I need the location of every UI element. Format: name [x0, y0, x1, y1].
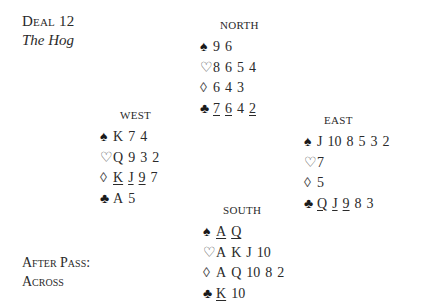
- card-rank: A: [113, 189, 123, 209]
- card-rank: J: [128, 168, 133, 188]
- card-rank: 6: [225, 37, 232, 57]
- card-rank: K: [113, 168, 123, 188]
- card-rank: 10: [327, 132, 341, 152]
- card-rank: 2: [382, 132, 389, 152]
- card-rank: 8: [355, 194, 362, 214]
- hand-west: WEST ♠K74♡Q932◊KJ97♣A5: [100, 108, 164, 209]
- card-rank: 8: [265, 263, 272, 283]
- heart-icon: ♡: [203, 243, 216, 263]
- card-rank: 10: [257, 243, 271, 263]
- suit-row-clubs: ♣7642: [200, 99, 261, 120]
- card-rank: 10: [246, 263, 260, 283]
- card-rank: A: [216, 222, 226, 242]
- heart-icon: ♡: [100, 148, 113, 168]
- spade-icon: ♠: [200, 37, 213, 57]
- deal-subtitle: The Hog: [22, 32, 74, 49]
- card-rank: J: [317, 132, 322, 152]
- card-rank: 3: [370, 132, 377, 152]
- card-rank: 6: [225, 99, 232, 119]
- card-rank: A: [216, 263, 226, 283]
- card-rank: 7: [151, 168, 158, 188]
- suit-row-spades: ♠K74: [100, 127, 164, 148]
- hand-label-north: NORTH: [220, 18, 261, 32]
- hand-label-west: WEST: [120, 108, 164, 122]
- card-rank: K: [231, 243, 241, 263]
- pass-direction: Across: [22, 274, 64, 290]
- diamond-icon: ◊: [200, 78, 213, 98]
- heart-icon: ♡: [200, 58, 213, 78]
- club-icon: ♣: [100, 189, 113, 209]
- card-rank: 8: [213, 58, 220, 78]
- hand-east: EAST ♠J108532♡7◊5♣QJ983: [304, 113, 394, 214]
- card-rank: 7: [213, 99, 220, 119]
- card-rank: 5: [317, 173, 324, 193]
- suit-row-hearts: ♡7: [304, 153, 394, 174]
- club-icon: ♣: [304, 194, 317, 214]
- card-rank: K: [113, 127, 123, 147]
- card-rank: 7: [128, 127, 135, 147]
- card-rank: Q: [231, 222, 241, 242]
- hand-label-east: EAST: [324, 113, 394, 127]
- card-rank: 4: [249, 58, 256, 78]
- card-rank: 3: [367, 194, 374, 214]
- card-rank: 2: [152, 148, 159, 168]
- card-rank: 2: [277, 263, 284, 283]
- suit-row-clubs: ♣QJ983: [304, 194, 394, 215]
- card-rank: 4: [237, 99, 244, 119]
- hand-north: NORTH ♠96♡8654◊643♣7642: [200, 18, 261, 119]
- card-rank: J: [246, 243, 251, 263]
- suit-row-hearts: ♡Q932: [100, 148, 164, 169]
- diamond-icon: ◊: [100, 168, 113, 188]
- heart-icon: ♡: [304, 153, 317, 173]
- card-rank: 5: [237, 58, 244, 78]
- card-rank: 3: [237, 78, 244, 98]
- suit-row-clubs: ♣K10: [203, 284, 289, 305]
- after-pass-label: After Pass:: [22, 255, 90, 271]
- card-rank: 2: [249, 99, 256, 119]
- suit-row-diamonds: ◊AQ1082: [203, 263, 289, 284]
- card-rank: 5: [358, 132, 365, 152]
- card-rank: 9: [343, 194, 350, 214]
- card-rank: 5: [128, 189, 135, 209]
- spade-icon: ♠: [100, 127, 113, 147]
- card-rank: Q: [231, 263, 241, 283]
- hand-south: SOUTH ♠AQ♡AKJ10◊AQ1082♣K10: [203, 203, 289, 304]
- suit-row-hearts: ♡8654: [200, 58, 261, 79]
- card-rank: 9: [139, 168, 146, 188]
- card-rank: 9: [128, 148, 135, 168]
- card-rank: Q: [113, 148, 123, 168]
- card-rank: K: [216, 284, 226, 304]
- card-rank: 6: [225, 58, 232, 78]
- card-rank: 6: [213, 78, 220, 98]
- suit-row-clubs: ♣A5: [100, 189, 164, 210]
- card-rank: 10: [231, 284, 245, 304]
- suit-row-diamonds: ◊643: [200, 78, 261, 99]
- suit-row-spades: ♠96: [200, 37, 261, 58]
- card-rank: 4: [225, 78, 232, 98]
- spade-icon: ♠: [203, 222, 216, 242]
- diamond-icon: ◊: [203, 263, 216, 283]
- card-rank: 7: [317, 153, 324, 173]
- suit-row-spades: ♠J108532: [304, 132, 394, 153]
- card-rank: J: [332, 194, 337, 214]
- suit-row-diamonds: ◊5: [304, 173, 394, 194]
- diamond-icon: ◊: [304, 173, 317, 193]
- hand-label-south: SOUTH: [223, 203, 289, 217]
- card-rank: 8: [346, 132, 353, 152]
- suit-row-diamonds: ◊KJ97: [100, 168, 164, 189]
- deal-title: Deal 12: [22, 13, 74, 30]
- spade-icon: ♠: [304, 132, 317, 152]
- card-rank: Q: [317, 194, 327, 214]
- club-icon: ♣: [203, 284, 216, 304]
- card-rank: 3: [140, 148, 147, 168]
- suit-row-spades: ♠AQ: [203, 222, 289, 243]
- card-rank: 4: [140, 127, 147, 147]
- suit-row-hearts: ♡AKJ10: [203, 243, 289, 264]
- card-rank: 9: [213, 37, 220, 57]
- card-rank: A: [216, 243, 226, 263]
- club-icon: ♣: [200, 99, 213, 119]
